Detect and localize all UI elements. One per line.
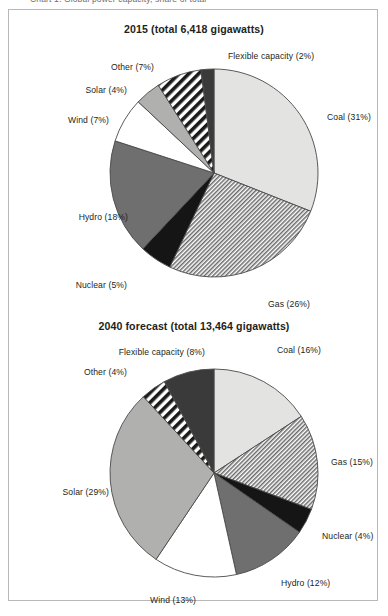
pie-svg-2040-forecast: [101, 360, 327, 586]
pie-chart-2040: 2040 forecast (total 13,464 gigawatts) C…: [9, 308, 379, 602]
pie-label-solar: Solar (4%): [85, 86, 127, 95]
pie-label-hydro: Hydro (12%): [281, 579, 330, 588]
pie-label-flexible-capacity: Flexible capacity (2%): [228, 52, 314, 61]
pie-label-hydro: Hydro (18%): [79, 213, 128, 222]
pie-label-coal: Coal (16%): [277, 346, 321, 355]
pie-label-wind: Wind (7%): [68, 116, 109, 125]
cut-off-caption-text: Chart 1. Global power capacity, share of…: [30, 0, 206, 4]
pie-label-nuclear: Nuclear (4%): [322, 532, 373, 541]
pie-svg-2015: [101, 60, 327, 286]
pie-label-flexible-capacity: Flexible capacity (8%): [119, 348, 205, 357]
pie-wrap-2040: Coal (16%)Gas (15%)Nuclear (4%)Hydro (12…: [9, 308, 379, 602]
pie-label-other: Other (4%): [84, 368, 127, 377]
pie-wrap-2015: Coal (31%)Gas (26%)Nuclear (5%)Hydro (18…: [9, 10, 379, 308]
page-frame: 2015 (total 6,418 gigawatts) Coal (31%)G…: [8, 9, 378, 601]
pie-label-gas: Gas (15%): [331, 458, 373, 467]
pie-label-coal: Coal (31%): [327, 113, 371, 122]
pie-label-wind: Wind (13%): [150, 596, 196, 605]
pie-label-nuclear: Nuclear (5%): [76, 281, 127, 290]
pie-label-other: Other (7%): [111, 63, 154, 72]
pie-label-solar: Solar (29%): [63, 488, 109, 497]
pie-chart-2015: 2015 (total 6,418 gigawatts) Coal (31%)G…: [9, 10, 379, 308]
cut-off-caption-strip: Chart 1. Global power capacity, share of…: [0, 0, 388, 9]
